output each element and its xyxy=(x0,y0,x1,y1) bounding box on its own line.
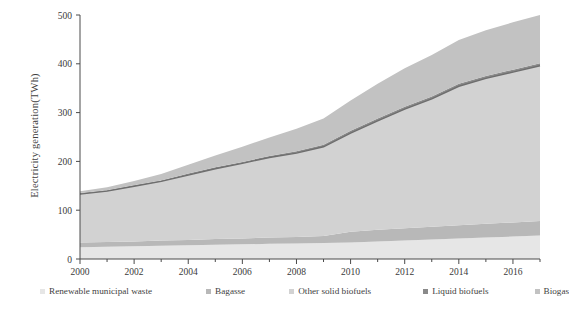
y-tick-label: 300 xyxy=(58,108,73,118)
chart-legend: Renewable municipal wasteBagasseOther so… xyxy=(40,286,540,296)
area-band-other-solid-biofuels xyxy=(80,66,540,243)
legend-swatch-icon xyxy=(40,289,45,294)
x-tick-label: 2016 xyxy=(503,267,522,277)
legend-label: Other solid biofuels xyxy=(298,286,371,296)
y-tick-label: 400 xyxy=(58,59,73,69)
legend-swatch-icon xyxy=(206,289,211,294)
x-tick-label: 2006 xyxy=(233,267,252,277)
y-tick-label: 200 xyxy=(58,157,73,167)
legend-swatch-icon xyxy=(289,289,294,294)
legend-item-renewable-municipal-waste[interactable]: Renewable municipal waste xyxy=(40,286,152,296)
x-tick-label: 2002 xyxy=(125,267,144,277)
x-tick-label: 2012 xyxy=(395,267,414,277)
x-tick-label: 2000 xyxy=(71,267,90,277)
x-tick-label: 2010 xyxy=(341,267,360,277)
y-tick-label: 0 xyxy=(67,255,72,265)
legend-label: Biogas xyxy=(544,286,569,296)
y-tick-label: 500 xyxy=(58,11,73,21)
x-tick-label: 2014 xyxy=(449,267,468,277)
legend-label: Renewable municipal waste xyxy=(49,286,152,296)
legend-item-bagasse[interactable]: Bagasse xyxy=(206,286,245,296)
legend-label: Liquid biofuels xyxy=(432,286,488,296)
legend-item-liquid-biofuels[interactable]: Liquid biofuels xyxy=(423,286,488,296)
legend-item-biogas[interactable]: Biogas xyxy=(535,286,569,296)
x-tick-label: 2008 xyxy=(287,267,306,277)
legend-label: Bagasse xyxy=(215,286,245,296)
legend-swatch-icon xyxy=(423,289,428,294)
legend-item-other-solid-biofuels[interactable]: Other solid biofuels xyxy=(289,286,371,296)
legend-swatch-icon xyxy=(535,289,540,294)
x-tick-label: 2004 xyxy=(179,267,198,277)
y-tick-label: 100 xyxy=(58,206,73,216)
